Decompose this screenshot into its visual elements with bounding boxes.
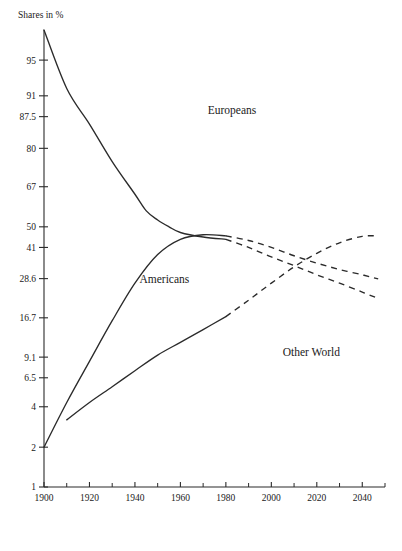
series-label-other-world: Other World bbox=[283, 346, 341, 358]
y-tick-label: 67 bbox=[27, 182, 37, 192]
series-label-europeans: Europeans bbox=[208, 104, 257, 117]
series-observed-line bbox=[44, 30, 226, 239]
series-labels-layer: EuropeansAmericansOther World bbox=[139, 104, 340, 358]
series-projected-line bbox=[226, 236, 378, 279]
series-other-world bbox=[67, 236, 378, 420]
x-tick-label: 1940 bbox=[125, 493, 144, 503]
y-tick-label: 41 bbox=[27, 243, 37, 253]
y-tick-label: 4 bbox=[31, 402, 36, 412]
chart-container: 959187.58067504128.616.79.16.54211900192… bbox=[0, 0, 402, 551]
y-tick-label: 87.5 bbox=[19, 112, 36, 122]
series-europeans bbox=[44, 30, 378, 298]
y-tick-label: 80 bbox=[27, 144, 37, 154]
y-axis-title: Shares in % bbox=[18, 10, 63, 20]
series-observed-line bbox=[67, 317, 226, 420]
series-observed-line bbox=[44, 235, 226, 448]
x-tick-label: 2040 bbox=[353, 493, 372, 503]
series-americans bbox=[44, 235, 378, 448]
y-tick-label: 1 bbox=[31, 482, 36, 492]
y-tick-label: 28.6 bbox=[19, 274, 36, 284]
x-tick-label: 1900 bbox=[35, 493, 54, 503]
shares-line-chart: 959187.58067504128.616.79.16.54211900192… bbox=[0, 0, 402, 551]
x-tick-label: 1960 bbox=[171, 493, 190, 503]
x-tick-label: 1920 bbox=[80, 493, 99, 503]
y-tick-label: 95 bbox=[27, 56, 37, 66]
x-tick-label: 2020 bbox=[307, 493, 326, 503]
ticks-layer bbox=[39, 60, 385, 487]
tick-labels-layer: 959187.58067504128.616.79.16.54211900192… bbox=[19, 56, 372, 503]
y-tick-label: 16.7 bbox=[19, 313, 36, 323]
y-tick-label: 91 bbox=[27, 91, 37, 101]
y-tick-label: 2 bbox=[31, 443, 36, 453]
y-tick-label: 6.5 bbox=[24, 373, 36, 383]
y-tick-label: 50 bbox=[27, 222, 37, 232]
x-tick-label: 2000 bbox=[262, 493, 281, 503]
y-tick-label: 9.1 bbox=[24, 353, 36, 363]
axes-layer bbox=[44, 30, 385, 487]
series-label-americans: Americans bbox=[139, 273, 189, 285]
x-tick-label: 1980 bbox=[216, 493, 235, 503]
series-projected-line bbox=[226, 239, 378, 298]
series-layer bbox=[44, 30, 378, 447]
